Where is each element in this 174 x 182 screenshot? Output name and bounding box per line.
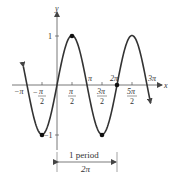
y-axis-label: y — [54, 4, 59, 13]
x-tick-5pi-2-den: 2 — [130, 97, 134, 106]
x-axis-label: x — [163, 81, 168, 90]
y-tick-1: 1 — [48, 32, 52, 41]
x-tick-pi-2-num: π — [69, 87, 74, 96]
x-tick-3pi: 3π — [147, 74, 157, 83]
period-label: 1 period — [69, 150, 99, 160]
x-tick-2pi: 2π — [110, 74, 119, 83]
period-value: 2π — [81, 164, 91, 174]
x-tick-5pi-2-num: 5π — [127, 87, 136, 96]
x-tick-neg-pi-2-den: 2 — [40, 97, 44, 106]
x-tick-neg-pi-2-num: π — [39, 87, 44, 96]
zero-point-2pi — [115, 83, 120, 88]
sine-graph: y x 1 −1 −π − π 2 π 2 π 3π 2 2π 5π 2 3π … — [0, 0, 174, 182]
x-tick-3pi-2-num: 3π — [96, 87, 106, 96]
x-tick-pi: π — [88, 74, 93, 83]
x-tick-neg-pi-2-sign: − — [33, 88, 38, 97]
x-tick-pi-2-den: 2 — [70, 97, 74, 106]
peak-point — [70, 34, 75, 39]
y-tick-neg1: −1 — [44, 131, 53, 140]
x-tick-3pi-2-den: 2 — [100, 97, 104, 106]
x-tick-neg-pi: −π — [14, 87, 24, 96]
trough-point-right — [100, 133, 105, 138]
